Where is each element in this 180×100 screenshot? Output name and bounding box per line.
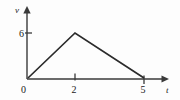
velocity-curve <box>28 33 144 78</box>
y-tick-label-6: 6 <box>19 28 24 39</box>
x-tick-label-5: 5 <box>141 84 146 95</box>
x-tick-label-2: 2 <box>72 84 77 95</box>
chart-canvas: v t 6 0 2 5 <box>0 0 180 100</box>
x-axis-label: t <box>166 85 169 95</box>
arrow-right-icon <box>162 76 170 83</box>
y-axis-label: v <box>15 5 19 15</box>
velocity-time-graph-figure: v t 6 0 2 5 <box>0 0 180 100</box>
arrow-up-icon <box>23 6 30 14</box>
origin-label: 0 <box>21 84 26 95</box>
